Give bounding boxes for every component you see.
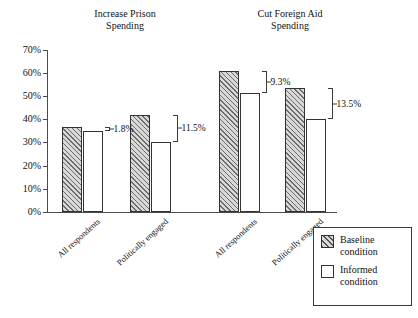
difference-label: 1.8%	[114, 124, 134, 134]
chart-legend: Baseline condition Informed condition	[313, 227, 412, 306]
y-tick-label: 0%	[28, 207, 41, 217]
x-axis-line	[47, 212, 337, 213]
y-tick-mark	[43, 166, 47, 167]
bar-baseline	[219, 71, 239, 212]
category-label: All respondents	[213, 217, 259, 260]
y-tick-mark	[43, 189, 47, 190]
bar-chart-figure: Increase Prison Spending Cut Foreign Aid…	[0, 0, 418, 318]
y-tick-mark	[43, 119, 47, 120]
plot-area: 70%60%50%40%30%20%10%0% 1.8%11.5%9.3%13.…	[47, 50, 337, 213]
y-tick-mark	[43, 142, 47, 143]
legend-item-baseline: Baseline condition	[321, 234, 406, 257]
bar-informed	[151, 142, 171, 212]
y-tick-label: 50%	[23, 91, 41, 101]
y-tick-label: 30%	[23, 137, 41, 147]
category-label: Politically engaged	[115, 217, 170, 267]
panel-title-aid: Cut Foreign Aid Spending	[215, 8, 365, 31]
category-label: All respondents	[56, 217, 102, 260]
y-tick-mark	[43, 96, 47, 97]
baseline-swatch-icon	[321, 235, 334, 248]
difference-label: 9.3%	[271, 77, 291, 87]
y-tick-label: 60%	[23, 68, 41, 78]
legend-item-informed: Informed condition	[321, 264, 406, 287]
y-tick-label: 40%	[23, 114, 41, 124]
difference-label: 13.5%	[337, 99, 362, 109]
legend-label-baseline: Baseline condition	[340, 234, 378, 257]
informed-swatch-icon	[321, 265, 334, 278]
y-tick-label: 20%	[23, 161, 41, 171]
bar-informed	[240, 93, 260, 212]
bar-baseline	[62, 127, 82, 212]
y-tick-mark	[43, 73, 47, 74]
y-tick-label: 70%	[23, 45, 41, 55]
y-tick-label: 10%	[23, 184, 41, 194]
y-axis-line	[47, 50, 48, 213]
panel-title-prison: Increase Prison Spending	[50, 8, 200, 31]
difference-label: 11.5%	[182, 123, 206, 133]
y-tick-mark	[43, 50, 47, 51]
bar-baseline	[285, 88, 305, 212]
bar-informed	[83, 131, 103, 212]
y-tick-mark	[43, 212, 47, 213]
legend-label-informed: Informed condition	[340, 264, 378, 287]
bar-informed	[306, 119, 326, 211]
